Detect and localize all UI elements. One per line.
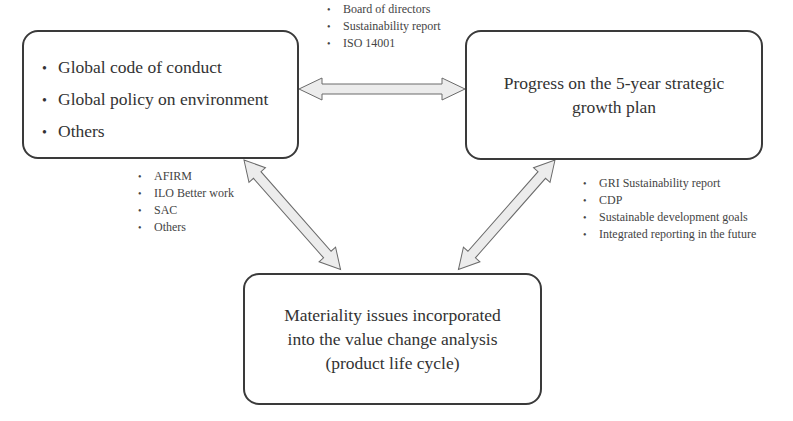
double-arrow-right-diagonal <box>450 153 563 277</box>
top-connector-labels: •Board of directors •Sustainability repo… <box>327 1 441 52</box>
policies-list: •Global code of conduct •Global policy o… <box>42 52 297 148</box>
strategic-plan-text: Progress on the 5-year strategic growth … <box>494 71 735 119</box>
double-arrow-left-diagonal <box>236 153 349 277</box>
list-item: •ISO 14001 <box>327 35 441 52</box>
list-item: •Board of directors <box>327 1 441 18</box>
double-arrow-horizontal <box>299 78 465 100</box>
list-item: •Sustainable development goals <box>583 209 756 226</box>
list-item: •AFIRM <box>138 168 234 185</box>
bullet-icon: • <box>138 203 154 219</box>
list-item: •Others <box>138 219 234 236</box>
bullet-icon: • <box>138 220 154 236</box>
bullet-icon: • <box>583 210 599 226</box>
bullet-icon: • <box>138 169 154 185</box>
bullet-icon: • <box>327 36 343 52</box>
strategic-plan-box: Progress on the 5-year strategic growth … <box>465 30 763 160</box>
bullet-icon: • <box>583 227 599 243</box>
bullet-icon: • <box>42 118 58 148</box>
left-connector-labels: •AFIRM •ILO Better work •SAC •Others <box>138 168 234 236</box>
list-item: •Global code of conduct <box>42 52 297 84</box>
bullet-icon: • <box>327 2 343 18</box>
bullet-icon: • <box>138 186 154 202</box>
materiality-box: Materiality issues incorporated into the… <box>243 273 542 405</box>
list-item: •Sustainability report <box>327 18 441 35</box>
list-item: •CDP <box>583 192 756 209</box>
list-item: •Integrated reporting in the future <box>583 226 756 243</box>
list-item: •SAC <box>138 202 234 219</box>
list-item: •Global policy on environment <box>42 84 297 116</box>
right-connector-labels: •GRI Sustainability report •CDP •Sustain… <box>583 175 756 243</box>
bullet-icon: • <box>583 193 599 209</box>
policies-box: •Global code of conduct •Global policy o… <box>22 30 299 159</box>
bullet-icon: • <box>583 176 599 192</box>
list-item: •ILO Better work <box>138 185 234 202</box>
bullet-icon: • <box>42 54 58 84</box>
materiality-text: Materiality issues incorporated into the… <box>274 303 511 375</box>
list-item: •GRI Sustainability report <box>583 175 756 192</box>
bullet-icon: • <box>42 86 58 116</box>
list-item: •Others <box>42 116 297 148</box>
bullet-icon: • <box>327 19 343 35</box>
